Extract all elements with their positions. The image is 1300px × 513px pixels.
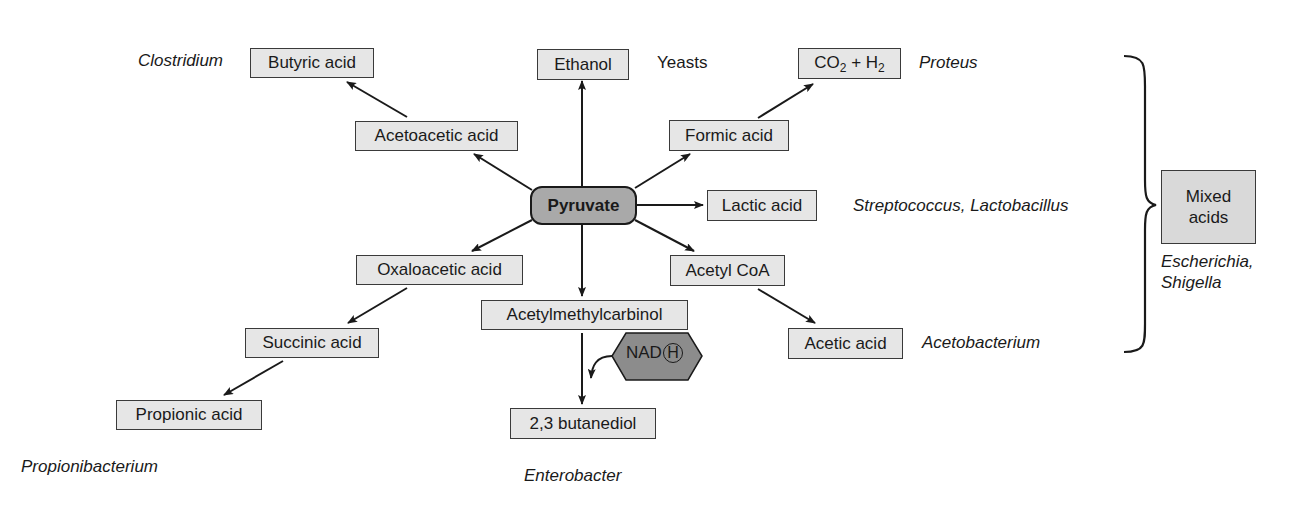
box-propionic-acid: Propionic acid — [116, 400, 262, 430]
organism-streptococcus-lactobacillus: Streptococcus, Lactobacillus — [853, 196, 1068, 216]
label-acids: acids — [1189, 207, 1229, 228]
box-butyric-acid: Butyric acid — [250, 48, 374, 78]
box-formic-acid: Formic acid — [669, 120, 789, 151]
box-acetoacetic-acid: Acetoacetic acid — [355, 121, 518, 151]
curly-brace — [1124, 56, 1156, 352]
label-acetoacetic-acid: Acetoacetic acid — [375, 126, 499, 146]
label-pyruvate: Pyruvate — [548, 196, 620, 216]
box-mixed-acids: Mixed acids — [1161, 170, 1256, 244]
box-acetylmethylcarbinol: Acetylmethylcarbinol — [481, 300, 688, 330]
arrow-acetylcoa-acetic — [758, 289, 815, 323]
box-acetic-acid: Acetic acid — [788, 328, 903, 359]
nad-text: NAD — [626, 343, 662, 363]
box-co2-h2: CO2 + H2 — [798, 48, 901, 79]
organism-acetobacterium: Acetobacterium — [922, 333, 1040, 353]
label-succinic-acid: Succinic acid — [262, 333, 361, 353]
organism-yeasts: Yeasts — [657, 53, 707, 73]
label-acetic-acid: Acetic acid — [804, 334, 886, 354]
arrow-succinic-propionic — [224, 361, 283, 395]
organism-escherichia: Escherichia, — [1161, 252, 1254, 272]
arrow-pyruvate-oxaloacetic — [472, 220, 532, 251]
box-acetyl-coa: Acetyl CoA — [670, 255, 785, 286]
circled-h-icon: H — [663, 343, 683, 363]
label-acetyl-coa: Acetyl CoA — [685, 261, 769, 281]
label-co2-h2: CO2 + H2 — [814, 53, 885, 75]
arrow-oxaloacetic-succinic — [348, 288, 407, 323]
box-ethanol: Ethanol — [537, 49, 629, 80]
node-pyruvate: Pyruvate — [530, 186, 637, 225]
box-lactic-acid: Lactic acid — [707, 190, 817, 221]
arrow-pyruvate-acetoacetic — [474, 154, 532, 190]
arrow-nadh — [591, 356, 612, 378]
label-lactic-acid: Lactic acid — [722, 196, 802, 216]
arrow-pyruvate-acetylcoa — [635, 220, 694, 251]
label-butyric-acid: Butyric acid — [268, 53, 356, 73]
arrow-formic-co2 — [758, 84, 813, 118]
organism-shigella: Shigella — [1161, 273, 1222, 293]
label-acetylmethylcarbinol: Acetylmethylcarbinol — [507, 305, 663, 325]
label-ethanol: Ethanol — [554, 55, 612, 75]
organism-proteus: Proteus — [919, 53, 978, 73]
label-butanediol: 2,3 butanediol — [530, 414, 637, 434]
box-butanediol: 2,3 butanediol — [510, 408, 656, 439]
label-mixed: Mixed — [1186, 186, 1231, 207]
organism-clostridium: Clostridium — [138, 51, 223, 71]
box-oxaloacetic-acid: Oxaloacetic acid — [356, 255, 523, 285]
organism-propionibacterium: Propionibacterium — [21, 457, 158, 477]
nadh-label: NADH — [626, 343, 683, 363]
arrow-pyruvate-formic — [635, 154, 690, 188]
box-succinic-acid: Succinic acid — [245, 328, 379, 358]
arrow-acetoacetic-butyric — [347, 82, 407, 117]
label-formic-acid: Formic acid — [685, 126, 773, 146]
label-propionic-acid: Propionic acid — [136, 405, 243, 425]
label-oxaloacetic-acid: Oxaloacetic acid — [377, 260, 502, 280]
organism-enterobacter: Enterobacter — [524, 466, 621, 486]
